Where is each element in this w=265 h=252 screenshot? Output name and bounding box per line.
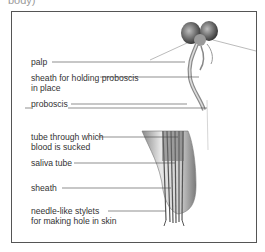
antenna-right xyxy=(213,40,256,51)
palp-right xyxy=(200,46,204,70)
label-saliva-tube: saliva tube xyxy=(31,158,72,168)
label-stylets-line2: for making hole in skin xyxy=(31,216,117,226)
label-sheath-holding-line1: sheath for holding proboscis xyxy=(31,73,139,83)
label-proboscis: proboscis xyxy=(31,99,68,109)
label-tube-blood-line2: blood is sucked xyxy=(31,142,90,152)
label-tube-blood-line1: tube through which xyxy=(31,132,104,142)
label-sheath-holding-line2: in place xyxy=(31,83,61,93)
label-sheath: sheath xyxy=(31,183,57,193)
antenna-left xyxy=(150,43,187,60)
label-stylets-line1: needle-like stylets xyxy=(31,206,99,216)
label-palp: palp xyxy=(31,57,47,67)
